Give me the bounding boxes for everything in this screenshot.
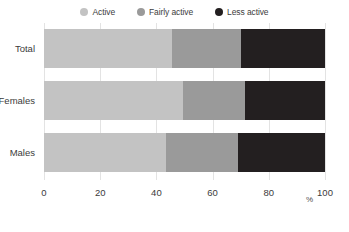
bar-segment [166,133,238,172]
y-axis-label-males: Males [10,147,35,158]
table-row [44,133,325,172]
table-row [44,29,325,68]
bar-segment [44,81,183,120]
x-axis-tick-label: 20 [95,187,106,198]
bar-segment [172,29,241,68]
legend-item-less-active: Less active [215,8,268,17]
bar-segment [245,81,325,120]
gridline [325,23,326,180]
stacked-bar-chart: Active Fairly active Less active Total F… [0,0,349,232]
bar-segment [44,29,172,68]
x-axis-tick-label: 60 [207,187,218,198]
bar-group [44,23,325,180]
legend-swatch-less-active-icon [215,8,223,16]
bar-segment [238,133,325,172]
bar-segment [183,81,245,120]
x-axis-tick-label: 100 [317,187,333,198]
x-axis-tick-label: 40 [151,187,162,198]
legend-swatch-fairly-active-icon [137,8,145,16]
legend-label-fairly-active: Fairly active [149,8,193,17]
legend-item-fairly-active: Fairly active [137,8,193,17]
y-axis-labels: Total Females Males [0,23,40,180]
x-axis: 020406080100 [44,182,325,204]
x-axis-unit-label: % [306,195,313,204]
table-row [44,81,325,120]
bar-segment [241,29,325,68]
y-axis-label-females: Females [0,95,35,106]
chart-legend: Active Fairly active Less active [0,4,349,20]
legend-label-active: Active [92,8,115,17]
plot-area [44,23,325,180]
x-axis-tick-label: 0 [41,187,46,198]
legend-label-less-active: Less active [227,8,268,17]
y-axis-label-total: Total [15,43,35,54]
legend-item-active: Active [80,8,115,17]
legend-swatch-active-icon [80,8,88,16]
x-axis-tick-label: 80 [264,187,275,198]
bar-segment [44,133,166,172]
